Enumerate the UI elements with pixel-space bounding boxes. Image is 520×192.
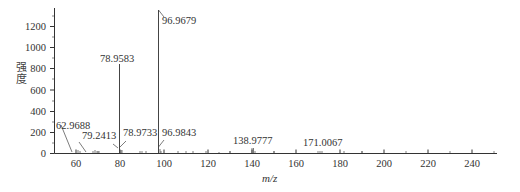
peak-label-79-2413: 79.2413: [82, 130, 116, 141]
peak-label-138-9777: 138.9777: [233, 135, 272, 146]
y-tick-labels: 0 200 400 600 800 1000 1200: [25, 21, 46, 159]
x-tick-100: 100: [156, 158, 172, 169]
x-tick-80: 80: [115, 158, 126, 169]
peak-label-96-9679: 96.9679: [162, 15, 196, 26]
y-tick-400: 400: [30, 106, 46, 117]
x-tick-60: 60: [71, 158, 82, 169]
peaks: [78, 10, 362, 153]
peak-label-171-0067: 171.0067: [303, 137, 342, 148]
y-tick-1200: 1200: [25, 21, 46, 32]
x-tick-200: 200: [376, 158, 392, 169]
y-tick-1000: 1000: [25, 42, 46, 53]
x-tick-120: 120: [200, 158, 216, 169]
x-tick-220: 220: [420, 158, 436, 169]
y-axis-label: 强 度: [14, 62, 28, 86]
x-tick-180: 180: [332, 158, 348, 169]
y-axis-label-char-2: 度: [14, 74, 28, 86]
peak-labels: 96.9679 78.9583 62.9688 79.2413 78.9733 …: [56, 15, 342, 148]
x-tick-140: 140: [244, 158, 260, 169]
peak-label-78-9733: 78.9733: [123, 127, 157, 138]
y-axis: [50, 8, 55, 154]
peak-label-96-9843: 96.9843: [162, 127, 196, 138]
y-tick-600: 600: [30, 85, 46, 96]
x-tick-labels: 60 80 100 120 140 160 180 200 220 240: [71, 158, 480, 169]
y-tick-0: 0: [41, 148, 46, 159]
y-tick-800: 800: [30, 63, 46, 74]
x-axis-label: m/z: [262, 172, 277, 184]
y-tick-200: 200: [30, 127, 46, 138]
x-tick-240: 240: [464, 158, 480, 169]
mass-spectrum-chart: 0 200 400 600 800 1000 1200 60 80 100 12…: [0, 0, 520, 192]
x-tick-160: 160: [288, 158, 304, 169]
peak-label-78-9583: 78.9583: [100, 53, 134, 64]
